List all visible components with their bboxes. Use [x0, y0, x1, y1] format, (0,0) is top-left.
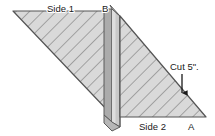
spine-back-face — [104, 9, 112, 122]
label-vertex-a: A — [188, 121, 195, 132]
spine-crease-highlight — [112, 9, 116, 124]
label-vertex-b: B — [102, 3, 108, 14]
diagram-canvas: Side 1 B Side 2 A Cut 5". — [0, 0, 215, 136]
label-cut-measurement: Cut 5". — [170, 61, 199, 72]
left-panel-side1 — [11, 11, 110, 115]
folded-sheet-diagram: Side 1 B Side 2 A Cut 5". — [0, 0, 215, 136]
label-side-1: Side 1 — [47, 3, 74, 14]
fold-spine — [104, 5, 120, 131]
label-side-2: Side 2 — [139, 121, 166, 132]
